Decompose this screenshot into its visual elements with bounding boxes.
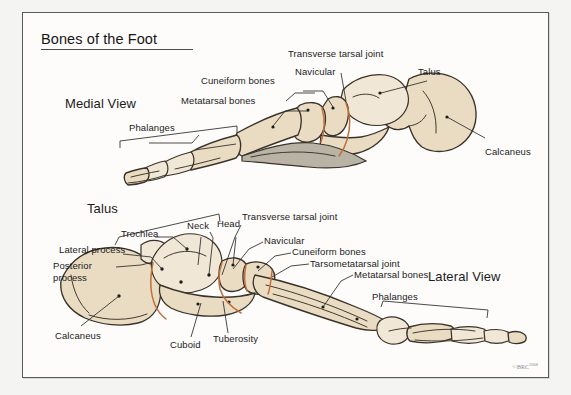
caption-medial-view: Medial View — [65, 98, 136, 109]
label-lateral-cuboid: Cuboid — [170, 339, 201, 350]
label-medial-talus: Talus — [418, 66, 441, 77]
copyright-year: 2008 — [529, 362, 538, 367]
label-medial-navicular: Navicular — [295, 66, 336, 77]
figure-root: .bone{fill:#e9dcc3;stroke:#3a3228;stroke… — [0, 0, 571, 395]
label-lateral-tuberosity: Tuberosity — [213, 333, 258, 344]
label-lateral-neck: Neck — [187, 220, 209, 231]
label-lateral-navicular: Navicular — [264, 235, 305, 246]
label-lateral-transverse-tarsal-joint: Transverse tarsal joint — [242, 211, 337, 222]
title-rule — [41, 49, 193, 50]
medial-view-bones — [124, 73, 476, 185]
diagram-panel: .bone{fill:#e9dcc3;stroke:#3a3228;stroke… — [22, 12, 549, 378]
label-lateral-cuneiform-bones: Cuneiform bones — [292, 246, 366, 257]
copyright-notice: ©BRC2008 — [512, 362, 538, 370]
label-medial-transverse-tarsal-joint: Transverse tarsal joint — [288, 48, 383, 59]
label-lateral-phalanges: Phalanges — [372, 291, 418, 302]
label-lateral-head: Head — [217, 218, 240, 229]
label-medial-cuneiform-bones: Cuneiform bones — [201, 75, 275, 86]
label-medial-calcaneus: Calcaneus — [485, 146, 531, 157]
label-lateral-metatarsal-bones: Metatarsal bones — [354, 269, 428, 280]
copyright-mark: ©BRC — [512, 364, 529, 370]
label-lateral-lateral-process: Lateral process — [59, 244, 125, 255]
label-lateral-calcaneus: Calcaneus — [55, 330, 101, 341]
page-title: Bones of the Foot — [41, 34, 157, 45]
foot-anatomy-illustration: .bone{fill:#e9dcc3;stroke:#3a3228;stroke… — [23, 13, 548, 377]
label-lateral-posterior-process-line2: process — [53, 272, 87, 283]
label-medial-phalanges: Phalanges — [129, 122, 175, 133]
label-lateral-talus: Talus — [87, 203, 118, 214]
label-lateral-posterior: Posterior — [53, 260, 92, 271]
caption-lateral-view: Lateral View — [428, 271, 501, 282]
label-lateral-trochlea: Trochlea — [121, 228, 158, 239]
label-lateral-tarsometatarsal-joint: Tarsometatarsal joint — [310, 258, 400, 269]
label-medial-metatarsal-bones: Metatarsal bones — [181, 95, 255, 106]
